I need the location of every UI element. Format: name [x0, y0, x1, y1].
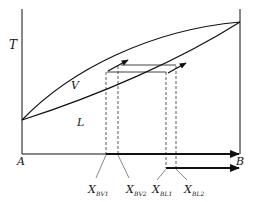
svg-text:BL2: BL2 [191, 190, 204, 197]
liquid-label: L [76, 116, 84, 129]
svg-text:BV2: BV2 [133, 190, 147, 197]
x-right-label: B [235, 155, 244, 168]
x-left-label: A [16, 155, 25, 168]
vapor-arrow [108, 60, 128, 71]
y-axis-label: T [9, 38, 18, 52]
leader-bl2 [176, 169, 187, 180]
svg-text:BL1: BL1 [159, 190, 172, 197]
phase-diagram: T A B V L X BV1 X BV2 X BL1 X BL2 [0, 0, 258, 202]
leader-bv1 [96, 155, 106, 178]
liquid-arrow [168, 63, 186, 73]
vapor-label: V [71, 79, 80, 92]
label-x-bv1: X BV1 [87, 183, 109, 197]
liquid-curve [22, 22, 240, 120]
label-x-bl2: X BL2 [183, 183, 204, 197]
label-x-bv2: X BV2 [125, 183, 147, 197]
vapor-curve [22, 22, 240, 120]
svg-text:BV1: BV1 [95, 190, 109, 197]
label-x-bl1: X BL1 [151, 183, 172, 197]
leader-bv2 [118, 155, 129, 178]
leader-bl1 [157, 169, 166, 180]
